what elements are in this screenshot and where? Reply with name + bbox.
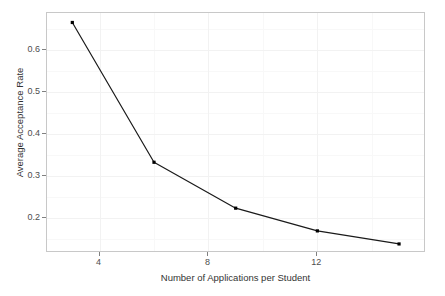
data-point <box>71 21 74 24</box>
data-point <box>397 242 400 245</box>
plot-panel <box>46 12 425 252</box>
x-axis-title: Number of Applications per Student <box>46 272 425 283</box>
y-axis-tick-mark <box>42 49 46 50</box>
series-markers <box>71 21 401 246</box>
x-axis-tick-label: 12 <box>296 257 336 268</box>
y-axis-tick-label: 0.2 <box>27 212 40 222</box>
x-axis-tick-mark <box>207 252 208 256</box>
x-axis-tick-mark <box>316 252 317 256</box>
y-axis-tick-label: 0.4 <box>27 128 40 138</box>
x-axis-tick-label: 4 <box>79 257 119 268</box>
data-point <box>316 229 319 232</box>
x-axis-tick-label: 8 <box>187 257 227 268</box>
y-axis-tick-label: 0.5 <box>27 86 40 96</box>
series-line <box>72 22 399 243</box>
chart-container: 0.20.30.40.50.6 Average Acceptance Rate … <box>0 0 445 296</box>
y-axis-tick-mark <box>42 175 46 176</box>
y-axis-tick-mark <box>42 91 46 92</box>
y-axis-tick-mark <box>42 133 46 134</box>
y-axis-tick-mark <box>42 217 46 218</box>
y-axis-title: Average Acceptance Rate <box>14 43 25 203</box>
line-series <box>47 13 425 252</box>
data-point <box>234 207 237 210</box>
x-axis-tick-mark <box>99 252 100 256</box>
y-axis-tick-label: 0.3 <box>27 170 40 180</box>
y-axis-tick-label: 0.6 <box>27 44 40 54</box>
data-point <box>152 161 155 164</box>
